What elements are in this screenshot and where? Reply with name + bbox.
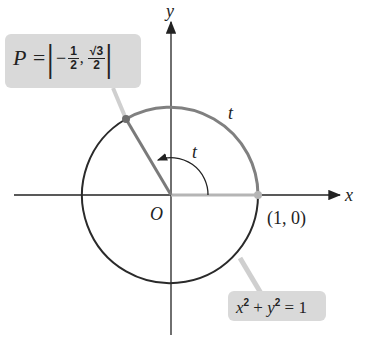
point-P <box>122 115 130 123</box>
point-P-callout: P = | − 12 , √32 | <box>5 34 141 88</box>
equation-callout-pointer <box>240 258 262 295</box>
terminal-side <box>126 119 171 195</box>
angle-t-label: t <box>192 143 197 161</box>
left-bracket: | <box>46 43 54 73</box>
x-sign: − <box>56 48 66 69</box>
x-axis-label: x <box>345 186 353 204</box>
origin-label: O <box>150 205 163 223</box>
angle-arc <box>158 158 208 195</box>
x-fraction: 12 <box>68 45 79 72</box>
arc-t-label: t <box>228 104 233 122</box>
point-1-0-label: (1, 0) <box>267 209 306 227</box>
p-prefix: P = <box>13 45 46 71</box>
point-1-0 <box>254 191 262 199</box>
y-axis-label: y <box>166 2 174 20</box>
unit-circle <box>82 119 258 283</box>
equation-callout: x2 + y2 = 1 <box>228 291 326 321</box>
right-bracket: | <box>105 43 113 73</box>
y-fraction: √32 <box>88 45 105 72</box>
p-callout-pointer <box>113 88 126 119</box>
